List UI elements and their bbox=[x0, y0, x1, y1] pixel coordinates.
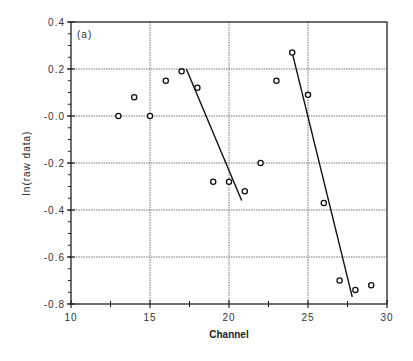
data-point bbox=[337, 278, 342, 283]
data-points bbox=[116, 50, 374, 293]
data-point bbox=[211, 179, 216, 184]
grid-lines bbox=[71, 22, 387, 304]
y-tick-label: -0.0 bbox=[44, 111, 65, 122]
fit-lines bbox=[186, 53, 352, 297]
x-tick-label: 10 bbox=[64, 312, 77, 323]
data-point bbox=[369, 283, 374, 288]
data-point bbox=[305, 92, 310, 97]
panel-label: (a) bbox=[77, 29, 92, 40]
y-tick-label: -0.2 bbox=[44, 158, 65, 169]
data-point bbox=[321, 200, 326, 205]
fit-line bbox=[292, 53, 352, 297]
data-point bbox=[258, 160, 263, 165]
data-point bbox=[116, 113, 121, 118]
data-point bbox=[147, 113, 152, 118]
y-axis-label: ln(raw data) bbox=[21, 131, 32, 196]
x-axis-label: Channel bbox=[209, 329, 249, 340]
y-tick-label: -0.8 bbox=[44, 299, 65, 310]
x-tick-label: 25 bbox=[301, 312, 314, 323]
y-tick-label: 0.2 bbox=[48, 64, 65, 75]
y-tick-label: -0.4 bbox=[44, 205, 65, 216]
x-tick-label: 15 bbox=[143, 312, 156, 323]
x-tick-label: 30 bbox=[380, 312, 393, 323]
data-point bbox=[242, 189, 247, 194]
axis-ticks: 0.40.2-0.0-0.2-0.4-0.6-0.81015202530 bbox=[44, 17, 394, 323]
x-tick-label: 20 bbox=[222, 312, 235, 323]
data-point bbox=[195, 85, 200, 90]
y-tick-label: 0.4 bbox=[48, 17, 65, 28]
data-point bbox=[163, 78, 168, 83]
chart: 0.40.2-0.0-0.2-0.4-0.6-0.81015202530 (a)… bbox=[0, 0, 413, 361]
data-point bbox=[132, 95, 137, 100]
data-point bbox=[226, 179, 231, 184]
data-point bbox=[274, 78, 279, 83]
data-point bbox=[290, 50, 295, 55]
data-point bbox=[179, 69, 184, 74]
data-point bbox=[353, 287, 358, 292]
y-tick-label: -0.6 bbox=[44, 252, 65, 263]
